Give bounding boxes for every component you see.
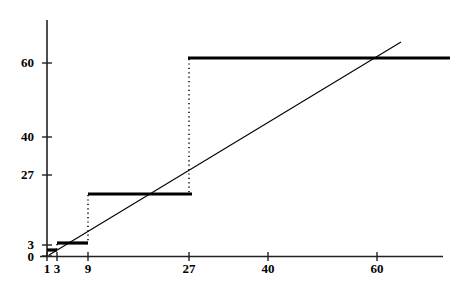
y-tick-label-27: 27 [4,168,34,181]
y-tick-label-0: 0 [4,250,34,263]
plot-area [0,0,455,301]
x-tick-label-3: 3 [49,262,65,275]
x-tick-label-40: 40 [257,262,279,275]
step-function-chart: 60 40 27 3 0 1 3 9 27 40 60 [0,0,455,301]
step-treads [47,58,450,250]
y-tick-label-60: 60 [4,56,34,69]
x-tick-label-27: 27 [178,262,200,275]
x-tick-label-60: 60 [366,262,388,275]
x-tick-label-9: 9 [80,262,96,275]
identity-line [49,42,401,255]
y-tick-label-40: 40 [4,130,34,143]
riser-connectors [57,59,189,249]
